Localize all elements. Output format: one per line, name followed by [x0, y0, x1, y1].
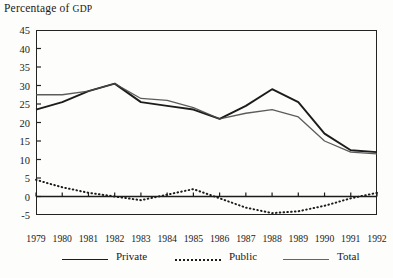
x-axis-tick-label: 1985	[184, 233, 203, 244]
y-axis-tick-label: 10	[2, 154, 30, 165]
x-axis-tick-label: 1992	[367, 233, 386, 244]
series-line-total	[36, 84, 377, 154]
chart-legend: PrivatePublicTotal	[0, 250, 393, 272]
x-axis-tick-label: 1981	[79, 233, 98, 244]
y-axis-tick-label: 30	[2, 80, 30, 91]
x-axis-tick-label: 1990	[315, 233, 334, 244]
x-axis-tick-label: 1986	[210, 233, 229, 244]
y-axis-tick-label: 45	[2, 25, 30, 36]
legend-label: Public	[229, 250, 257, 262]
y-axis-tick-label: 5	[2, 173, 30, 184]
legend-swatch-private-icon	[62, 259, 108, 263]
y-axis-tick-label: 20	[2, 117, 30, 128]
y-axis-tick-label: 0	[2, 191, 30, 202]
x-axis-tick-label: 1979	[26, 233, 45, 244]
x-axis-tick-label: 1991	[341, 233, 360, 244]
y-axis-tick-label: 15	[2, 136, 30, 147]
x-axis-tick-label: 1989	[289, 233, 308, 244]
x-axis-tick-label: 1982	[105, 233, 124, 244]
chart-figure: Percentage of GDP 454035302520151050-5 1…	[0, 0, 393, 278]
x-axis-tick-label: 1988	[262, 233, 281, 244]
x-axis-tick-label: 1980	[53, 233, 72, 244]
x-axis-tick-label: 1983	[131, 233, 150, 244]
y-axis-tick-label: 35	[2, 62, 30, 73]
legend-label: Total	[337, 250, 359, 262]
legend-swatch-public-icon	[175, 259, 221, 264]
x-axis-tick-label: 1984	[157, 233, 176, 244]
y-axis-tick-label: 25	[2, 99, 30, 110]
x-axis-tick-label: 1987	[236, 233, 255, 244]
legend-label: Private	[116, 250, 147, 262]
legend-swatch-total-icon	[283, 259, 329, 263]
y-axis-tick-label: -5	[2, 210, 30, 221]
y-axis-tick-label: 40	[2, 43, 30, 54]
